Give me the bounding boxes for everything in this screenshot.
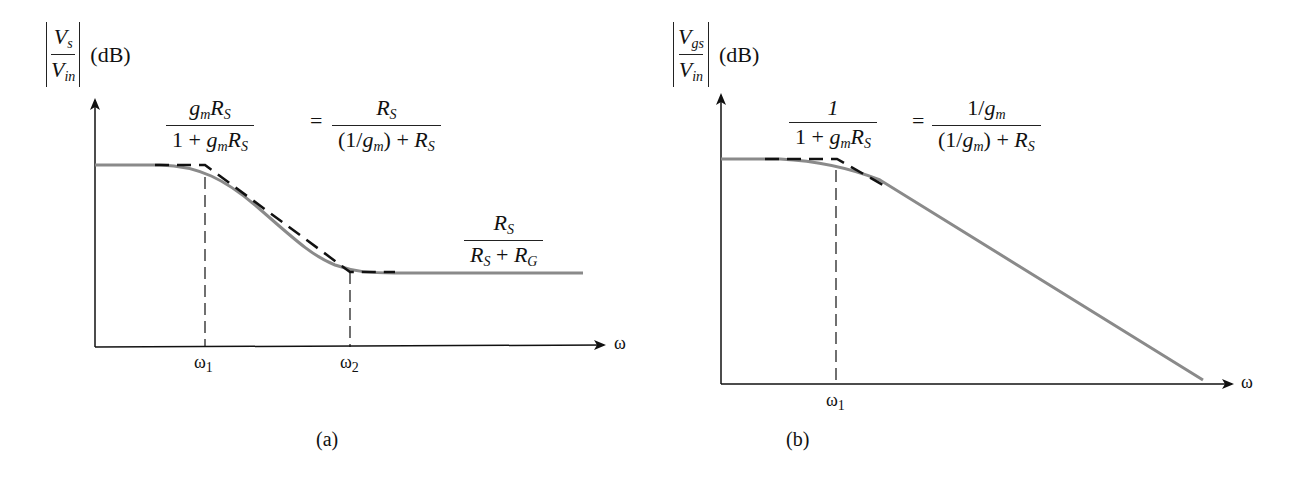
panel-a-lowfreq-rhs: RS (1/gm) + RS: [332, 97, 441, 154]
panel-a-lowfreq-lhs: gmRS 1 + gmRS: [166, 97, 254, 154]
panel-b-x-axis-label: ω: [1241, 372, 1253, 393]
panel-a-tick-omega2: ω2: [340, 352, 359, 376]
panel-a-y-axis-label: Vs Vin (dB): [46, 22, 131, 87]
plots-canvas: [0, 0, 1295, 479]
panel-a-y-unit: (dB): [90, 42, 130, 68]
panel-a-tick-omega1: ω1: [194, 352, 213, 376]
panel-a-equals: =: [310, 108, 322, 134]
panel-b-lowfreq-rhs: 1/gm (1/gm) + RS: [932, 97, 1041, 154]
panel-a-x-axis-label: ω: [614, 333, 626, 354]
panel-b-tick-omega1: ω1: [826, 390, 845, 414]
panel-b-response-curve: [721, 159, 1203, 380]
panel-a-caption: (a): [316, 428, 338, 451]
panel-b-caption: (b): [786, 428, 809, 451]
panel-a-asymptote: [155, 165, 395, 272]
panel-b-lowfreq-lhs: 1 1 + gmRS: [789, 97, 877, 151]
panel-b-y-axis-label: Vgs Vin (dB): [673, 22, 759, 87]
panel-a-highfreq-gain: RS RS + RG: [464, 212, 543, 269]
panel-b-equals: =: [912, 108, 924, 134]
panel-b-y-unit: (dB): [719, 42, 759, 68]
